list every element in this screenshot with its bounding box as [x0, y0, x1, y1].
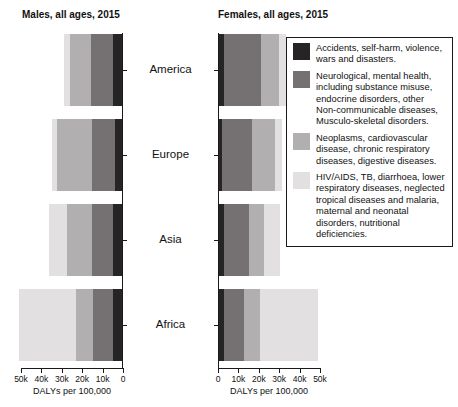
legend-swatch-icon	[293, 43, 310, 60]
bar-segment-europe-series3	[57, 119, 93, 191]
bar-segment-africa-series2	[93, 289, 112, 361]
bar-segment-asia-series1	[113, 204, 122, 276]
bar-segment-asia-series4	[264, 204, 280, 276]
bar-row-america	[64, 34, 122, 106]
x-axis-tick-label: 20k	[75, 374, 89, 384]
x-axis-tick-label: 40k	[293, 374, 307, 384]
x-axis-line	[218, 368, 321, 369]
x-axis-tick	[259, 368, 260, 373]
males-chart-title: Males, all ages, 2015	[22, 9, 120, 20]
bar-row-america	[219, 34, 286, 106]
figure-canvas: Males, all ages, 2015 Females, all ages,…	[0, 0, 458, 407]
x-axis-tick	[238, 368, 239, 373]
bar-segment-asia-series2	[92, 204, 112, 276]
x-axis-tick-label: 10k	[96, 374, 110, 384]
legend-entry-3: Neoplasms, cardiovascular disease, chron…	[293, 133, 446, 167]
females-chart-title: Females, all ages, 2015	[218, 9, 328, 20]
legend-swatch-icon	[293, 71, 310, 88]
x-axis-tick-label: 20k	[252, 374, 266, 384]
bar-row-asia	[49, 204, 122, 276]
legend-entry-2: Neurological, mental health, including s…	[293, 71, 446, 128]
bar-segment-africa-series3	[244, 289, 259, 361]
x-axis-tick-label: 0	[121, 374, 126, 384]
x-axis-tick-label: 40k	[35, 374, 49, 384]
bar-segment-europe-series2	[92, 119, 114, 191]
x-axis-tick	[218, 368, 219, 373]
legend-entry-label: Accidents, self-harm, violence, wars and…	[316, 43, 446, 66]
bar-segment-asia-series3	[67, 204, 93, 276]
x-axis-line	[21, 368, 124, 369]
bar-row-asia	[219, 204, 280, 276]
bar-segment-africa-series1	[113, 289, 122, 361]
bar-segment-europe-series2	[222, 119, 252, 191]
x-axis-title: DALYs per 100,000	[230, 386, 308, 396]
legend-entry-label: Neoplasms, cardiovascular disease, chron…	[316, 133, 446, 167]
bar-segment-europe-series3	[252, 119, 275, 191]
region-label-asia: Asia	[124, 233, 217, 245]
males-chart: 50k40k30k20k10k0DALYs per 100,000	[21, 33, 123, 368]
x-axis-tick	[62, 368, 63, 373]
x-axis-tick	[103, 368, 104, 373]
x-axis-tick-label: 50k	[313, 374, 327, 384]
bar-segment-asia-series4	[49, 204, 67, 276]
bar-segment-africa-series4	[19, 289, 76, 361]
bar-segment-europe-series1	[115, 119, 122, 191]
bar-segment-asia-series2	[224, 204, 248, 276]
bar-segment-america-series2	[224, 34, 261, 106]
x-axis-tick	[300, 368, 301, 373]
region-label-europe: Europe	[124, 148, 217, 160]
region-label-america: America	[124, 63, 217, 75]
bar-segment-africa-series2	[224, 289, 244, 361]
x-axis-tick-label: 30k	[55, 374, 69, 384]
bar-segment-africa-series4	[260, 289, 318, 361]
legend-swatch-icon	[293, 133, 310, 150]
legend-entry-label: HIV/AIDS, TB, diarrhoea, lower respirato…	[316, 172, 446, 240]
region-labels: AmericaEuropeAsiaAfrica	[124, 33, 217, 368]
bar-segment-america-series3	[70, 34, 91, 106]
legend-entry-1: Accidents, self-harm, violence, wars and…	[293, 43, 446, 66]
bar-row-europe	[219, 119, 282, 191]
x-axis-tick	[21, 368, 22, 373]
bar-row-africa	[219, 289, 318, 361]
x-axis-tick-label: 30k	[272, 374, 286, 384]
value-axis-spine	[122, 33, 123, 368]
bar-row-africa	[19, 289, 122, 361]
x-axis-tick-label: 10k	[232, 374, 246, 384]
x-axis-tick	[320, 368, 321, 373]
bar-segment-america-series3	[261, 34, 279, 106]
region-label-africa: Africa	[124, 318, 217, 330]
x-axis-title: DALYs per 100,000	[33, 386, 111, 396]
legend-box: Accidents, self-harm, violence, wars and…	[286, 37, 453, 247]
bar-row-europe	[52, 119, 122, 191]
x-axis-tick-label: 0	[216, 374, 221, 384]
x-axis-tick	[123, 368, 124, 373]
bar-segment-america-series2	[91, 34, 112, 106]
x-axis-tick-label: 50k	[14, 374, 28, 384]
bar-segment-asia-series3	[249, 204, 264, 276]
bar-segment-europe-series4	[275, 119, 282, 191]
bar-segment-africa-series3	[76, 289, 93, 361]
x-axis-tick	[41, 368, 42, 373]
legend-entry-4: HIV/AIDS, TB, diarrhoea, lower respirato…	[293, 172, 446, 240]
x-axis-tick	[82, 368, 83, 373]
legend-swatch-icon	[293, 172, 310, 189]
x-axis-tick	[279, 368, 280, 373]
bar-segment-america-series1	[113, 34, 122, 106]
legend-entry-label: Neurological, mental health, including s…	[316, 71, 446, 128]
